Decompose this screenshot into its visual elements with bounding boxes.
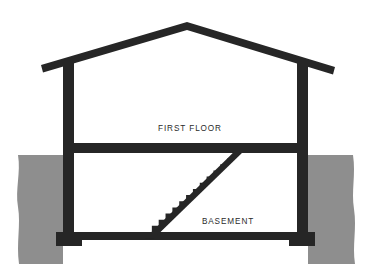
soil-left — [17, 155, 63, 264]
soil-right — [308, 155, 355, 264]
left-footing — [56, 232, 82, 246]
right-footing — [289, 232, 315, 246]
roof-group — [41, 22, 335, 75]
cross-section-drawing: FIRST FLOOR BASEMENT — [0, 0, 374, 264]
first-floor-slab — [63, 143, 308, 153]
gable-roof — [41, 22, 335, 75]
basement-floor-slab — [63, 232, 308, 240]
basement-label: BASEMENT — [202, 217, 254, 226]
first-floor-label: FIRST FLOOR — [158, 124, 222, 133]
building-cross-section-figure: FIRST FLOOR BASEMENT — [0, 0, 374, 264]
